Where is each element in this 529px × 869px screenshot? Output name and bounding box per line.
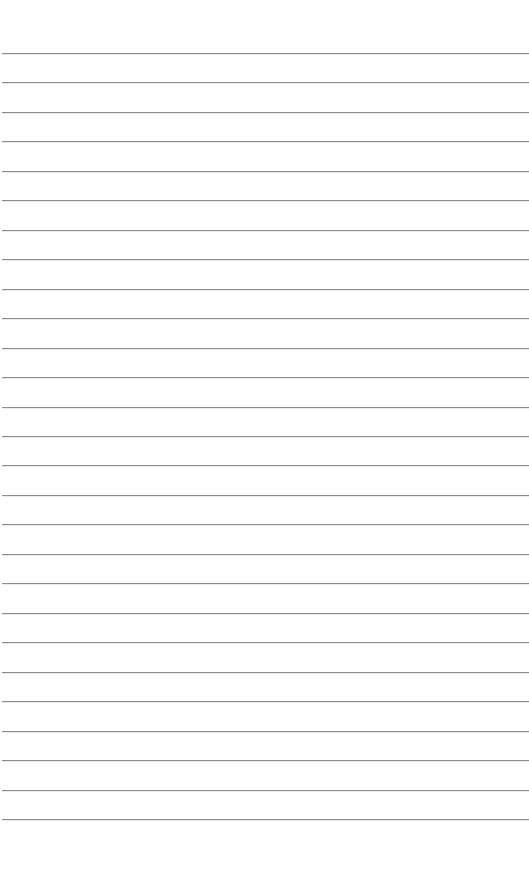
ruled-line (2, 583, 529, 584)
ruled-line (2, 82, 529, 83)
ruled-line (2, 112, 529, 113)
ruled-line (2, 701, 529, 702)
ruled-line (2, 200, 529, 201)
ruled-line (2, 731, 529, 732)
ruled-line (2, 524, 529, 525)
ruled-line (2, 790, 529, 791)
ruled-line (2, 554, 529, 555)
ruled-line (2, 642, 529, 643)
ruled-line (2, 760, 529, 761)
ruled-line (2, 348, 529, 349)
ruled-line (2, 377, 529, 378)
lined-paper-page (0, 0, 529, 869)
ruled-line (2, 259, 529, 260)
ruled-line (2, 495, 529, 496)
ruled-line (2, 465, 529, 466)
ruled-line (2, 289, 529, 290)
ruled-line (2, 407, 529, 408)
ruled-line (2, 672, 529, 673)
ruled-line (2, 171, 529, 172)
ruled-line (2, 230, 529, 231)
ruled-line (2, 819, 529, 820)
ruled-line (2, 318, 529, 319)
ruled-line (2, 436, 529, 437)
ruled-line (2, 613, 529, 614)
ruled-line (2, 141, 529, 142)
ruled-line (2, 53, 529, 54)
